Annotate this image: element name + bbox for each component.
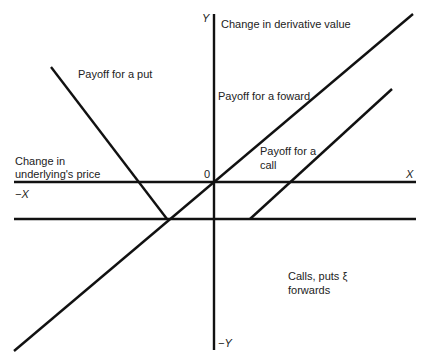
put-payoff-line — [51, 67, 167, 219]
x-axis-title-line2: underlying's price — [15, 168, 100, 181]
origin-label: 0 — [204, 168, 210, 181]
caption-line2: forwards — [288, 284, 330, 297]
y-axis-title: Change in derivative value — [221, 18, 351, 31]
x-negative-label: −X — [15, 188, 29, 201]
payoff-diagram — [0, 0, 426, 364]
forward-label: Payoff for a foward — [218, 90, 310, 103]
caption-line1: Calls, puts ξ — [288, 270, 347, 283]
put-label: Payoff for a put — [78, 68, 152, 81]
x-axis-title-line1: Change in — [15, 155, 65, 168]
call-label-line1: Payoff for a — [260, 145, 316, 158]
call-label-line2: call — [260, 159, 277, 172]
y-positive-label: Y — [202, 12, 209, 25]
x-positive-label: X — [406, 168, 413, 181]
y-negative-label: −Y — [218, 337, 232, 350]
